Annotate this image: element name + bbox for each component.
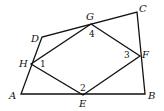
- angle-label-4: 4: [89, 30, 95, 39]
- vertex-label-e: E: [79, 99, 86, 109]
- figure-lines: [0, 0, 164, 111]
- vertex-label-c: C: [139, 4, 147, 14]
- vertex-label-b: B: [148, 91, 155, 101]
- vertex-label-h: H: [19, 59, 28, 69]
- vertex-label-a: A: [9, 91, 16, 101]
- vertex-label-f: F: [142, 50, 149, 60]
- angle-label-1: 1: [40, 60, 46, 69]
- vertex-label-g: G: [86, 12, 94, 22]
- geometry-diagram: A B C D E F G H 1 2 3 4: [0, 0, 164, 111]
- angle-label-2: 2: [80, 84, 86, 93]
- vertex-label-d: D: [31, 34, 39, 44]
- angle-label-3: 3: [124, 51, 130, 60]
